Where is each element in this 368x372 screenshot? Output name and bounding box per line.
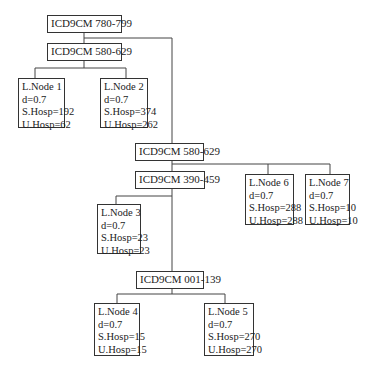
leaf-s-hosp: S.Hosp=374 [104,106,144,119]
split-node-root: ICD9CM 780-799 [47,15,122,33]
leaf-name: L.Node 1 [22,81,61,94]
split-node-580-629-left: ICD9CM 580-629 [47,43,122,61]
leaf-d: d=0.7 [309,190,346,203]
leaf-s-hosp: S.Hosp=15 [98,331,136,344]
leaf-d: d=0.7 [98,319,136,332]
leaf-d: d=0.7 [104,94,144,107]
decision-tree-diagram: ICD9CM 780-799 ICD9CM 580-629 ICD9CM 580… [0,0,368,372]
leaf-node-6: L.Node 6 d=0.7 S.Hosp=288 U.Hosp=288 [245,174,294,225]
leaf-d: d=0.7 [101,220,137,233]
leaf-name: L.Node 4 [98,306,136,319]
leaf-node-3: L.Node 3 d=0.7 S.Hosp=23 U.Hosp=23 [97,204,141,254]
leaf-node-5: L.Node 5 d=0.7 S.Hosp=270 U.Hosp=270 [204,303,254,356]
leaf-name: L.Node 5 [208,306,250,319]
split-node-580-629-right: ICD9CM 580-629 [135,143,204,161]
leaf-node-7: L.Node 7 d=0.7 S.Hosp=10 U.Hosp=10 [305,174,350,225]
leaf-name: L.Node 2 [104,81,144,94]
leaf-d: d=0.7 [22,94,61,107]
leaf-d: d=0.7 [208,319,250,332]
leaf-u-hosp: U.Hosp=288 [249,215,290,228]
leaf-s-hosp: S.Hosp=23 [101,232,137,245]
split-node-001-139: ICD9CM 001-139 [136,271,204,289]
leaf-d: d=0.7 [249,190,290,203]
leaf-node-4: L.Node 4 d=0.7 S.Hosp=15 U.Hosp=15 [94,303,140,356]
leaf-u-hosp: U.Hosp=23 [101,245,137,258]
leaf-name: L.Node 7 [309,177,346,190]
leaf-u-hosp: U.Hosp=10 [309,215,346,228]
leaf-s-hosp: S.Hosp=10 [309,202,346,215]
leaf-u-hosp: U.Hosp=262 [104,119,144,132]
leaf-s-hosp: S.Hosp=192 [22,106,61,119]
leaf-node-2: L.Node 2 d=0.7 S.Hosp=374 U.Hosp=262 [100,78,148,128]
leaf-node-1: L.Node 1 d=0.7 S.Hosp=192 U.Hosp=62 [18,78,65,128]
leaf-name: L.Node 3 [101,207,137,220]
leaf-u-hosp: U.Hosp=270 [208,344,250,357]
leaf-name: L.Node 6 [249,177,290,190]
leaf-u-hosp: U.Hosp=62 [22,119,61,132]
split-node-390-459: ICD9CM 390-459 [135,171,205,189]
leaf-s-hosp: S.Hosp=288 [249,202,290,215]
leaf-s-hosp: S.Hosp=270 [208,331,250,344]
leaf-u-hosp: U.Hosp=15 [98,344,136,357]
